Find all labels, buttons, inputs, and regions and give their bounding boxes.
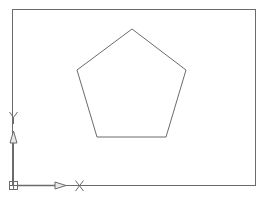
pentagon-shape[interactable] (77, 29, 186, 137)
y-arrow-icon (10, 131, 17, 143)
border-rectangle[interactable] (13, 10, 256, 186)
ucs-icon (10, 112, 84, 191)
x-arrow-icon (55, 182, 66, 189)
y-axis-label-icon (10, 112, 18, 124)
drawing-canvas[interactable]: X Y (0, 0, 263, 209)
